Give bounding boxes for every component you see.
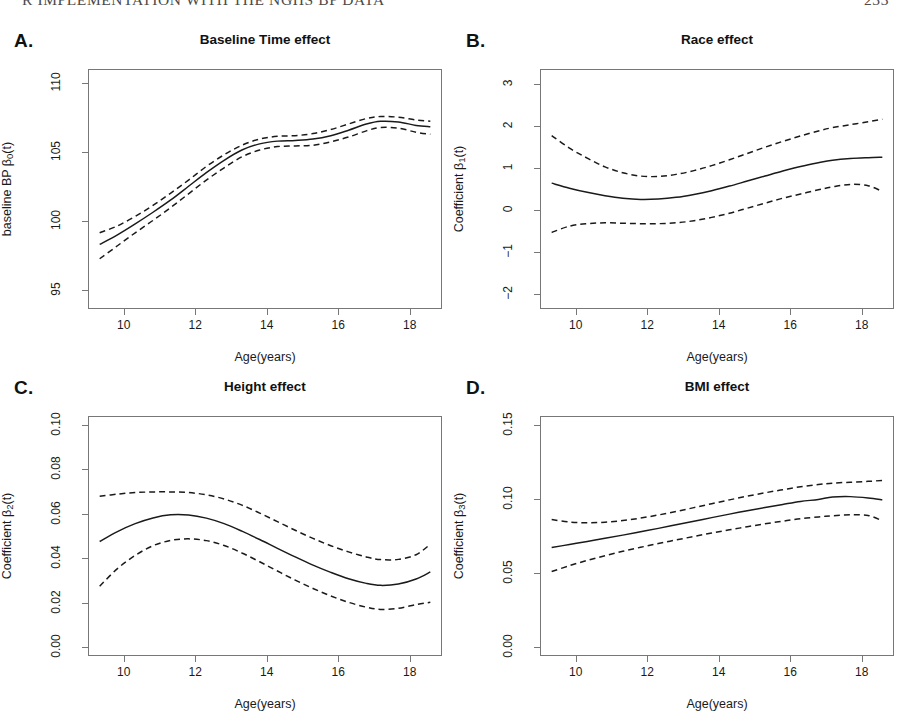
panel-letter-a: A. [14, 30, 33, 52]
x-tick-mark [267, 656, 268, 662]
x-tick-label: 14 [704, 665, 734, 679]
x-axis-title: Age(years) [88, 697, 442, 711]
panel-title-b: Race effect [540, 32, 894, 47]
panel-letter-b: B. [466, 30, 485, 52]
y-tick-label: 0.06 [49, 491, 63, 535]
x-tick-mark [338, 656, 339, 662]
running-header-title: R IMPLEMENTATION WITH THE NGHS BP DATA [22, 0, 385, 9]
panel-title-c: Height effect [88, 379, 442, 394]
x-tick-label: 16 [323, 665, 353, 679]
plot-area [88, 69, 442, 309]
x-tick-label: 16 [323, 318, 353, 332]
x-tick-label: 12 [632, 665, 662, 679]
x-tick-mark [862, 656, 863, 662]
y-tick-label: 0.05 [501, 550, 515, 594]
x-tick-label: 10 [561, 665, 591, 679]
x-tick-label: 12 [632, 318, 662, 332]
y-tick-label: 105 [49, 129, 63, 173]
y-tick-label: 0.10 [49, 402, 63, 446]
y-axis-title: Coefficient β1(t) [452, 69, 474, 309]
x-tick-mark [790, 309, 791, 315]
y-tick-label: 110 [49, 60, 63, 104]
curve-canvas [89, 70, 441, 308]
x-tick-label: 10 [561, 318, 591, 332]
x-tick-mark [338, 309, 339, 315]
x-tick-label: 14 [704, 318, 734, 332]
y-tick-label: 95 [49, 267, 63, 311]
curve-estimate [100, 515, 431, 586]
x-tick-mark [124, 656, 125, 662]
y-tick-label: 0.04 [49, 535, 63, 579]
chart-panel-d: D.BMI effectCoefficient β3(t)0.000.050.1… [452, 361, 908, 723]
y-tick-label: 0 [501, 187, 515, 231]
panel-letter-c: C. [14, 377, 33, 399]
y-tick-label: 1 [501, 145, 515, 189]
panel-title-d: BMI effect [540, 379, 894, 394]
plot-area [540, 69, 894, 309]
x-tick-mark [647, 656, 648, 662]
curve-canvas [541, 417, 893, 655]
plot-area [540, 416, 894, 656]
y-tick-label: 3 [501, 61, 515, 105]
x-tick-mark [195, 656, 196, 662]
x-tick-mark [195, 309, 196, 315]
x-tick-mark [719, 656, 720, 662]
curve-lower_ci [552, 515, 883, 572]
curve-lower_ci [100, 539, 431, 610]
y-tick-label: 2 [501, 103, 515, 147]
x-tick-mark [410, 309, 411, 315]
page-number: 233 [864, 0, 889, 9]
x-tick-label: 16 [775, 318, 805, 332]
y-tick-label: 0.00 [49, 624, 63, 668]
y-tick-label: 0.15 [501, 402, 515, 446]
panel-letter-d: D. [466, 377, 485, 399]
x-tick-mark [576, 309, 577, 315]
x-tick-mark [647, 309, 648, 315]
x-tick-label: 18 [395, 318, 425, 332]
curve-canvas [541, 70, 893, 308]
x-tick-mark [862, 309, 863, 315]
x-tick-label: 12 [180, 318, 210, 332]
x-tick-label: 14 [252, 665, 282, 679]
y-axis-title: baseline BP β0(t) [0, 69, 22, 309]
chart-panel-b: B.Race effectCoefficient β1(t)−2−1012310… [452, 14, 908, 376]
y-tick-label: 0.08 [49, 446, 63, 490]
x-tick-mark [124, 309, 125, 315]
curve-estimate [100, 121, 431, 244]
curve-canvas [89, 417, 441, 655]
panel-title-a: Baseline Time effect [88, 32, 442, 47]
x-tick-label: 12 [180, 665, 210, 679]
y-tick-label: 0.02 [49, 580, 63, 624]
curve-upper_ci [100, 492, 431, 560]
x-tick-mark [410, 656, 411, 662]
x-tick-label: 18 [847, 318, 877, 332]
x-tick-label: 18 [847, 665, 877, 679]
chart-panel-c: C.Height effectCoefficient β2(t)0.000.02… [0, 361, 456, 723]
x-tick-label: 18 [395, 665, 425, 679]
y-tick-label: −1 [501, 229, 515, 273]
x-tick-mark [267, 309, 268, 315]
x-tick-label: 10 [109, 318, 139, 332]
y-tick-label: 0.10 [501, 476, 515, 520]
x-tick-mark [719, 309, 720, 315]
y-tick-label: 0.00 [501, 624, 515, 668]
chart-panel-a: A.Baseline Time effectbaseline BP β0(t)9… [0, 14, 456, 376]
x-tick-mark [576, 656, 577, 662]
x-tick-label: 10 [109, 665, 139, 679]
plot-area [88, 416, 442, 656]
y-axis-title: Coefficient β2(t) [0, 416, 22, 656]
curve-upper_ci [552, 119, 883, 176]
y-axis-title: Coefficient β3(t) [452, 416, 474, 656]
y-tick-label: −2 [501, 271, 515, 315]
y-tick-label: 100 [49, 198, 63, 242]
curve-estimate [552, 157, 883, 199]
curve-lower_ci [552, 184, 883, 232]
page-running-header: R IMPLEMENTATION WITH THE NGHS BP DATA 2… [0, 0, 913, 11]
x-tick-mark [790, 656, 791, 662]
x-tick-label: 16 [775, 665, 805, 679]
curve-lower_ci [100, 127, 431, 259]
x-tick-label: 14 [252, 318, 282, 332]
x-axis-title: Age(years) [540, 697, 894, 711]
